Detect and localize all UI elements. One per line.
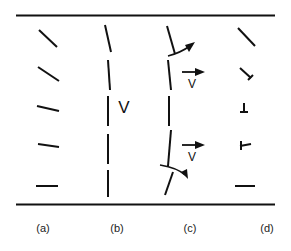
panel-label-a: (a) [36,222,49,234]
panel-label-c: (c) [184,222,197,234]
velocity-label-b: V [118,98,129,118]
panel-a-directors [36,30,59,186]
diagram-canvas [0,0,291,251]
panel-label-b: (b) [110,222,123,234]
panel-label-d: (d) [260,222,273,234]
velocity-label-c-bottom: V [188,150,196,164]
panel-c-directors [160,26,196,195]
velocity-label-c-top: V [188,77,196,91]
panel-d-directors [235,28,255,186]
panel-b-directors [105,25,111,197]
